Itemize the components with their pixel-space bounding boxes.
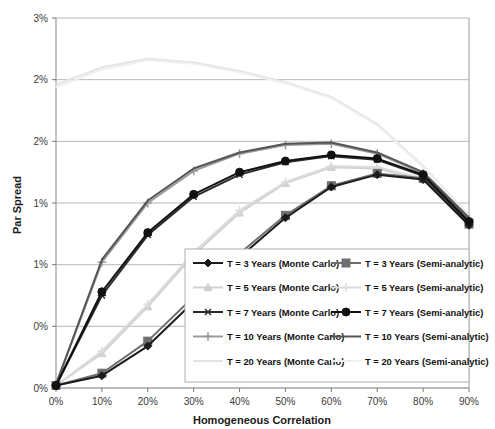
legend-label: T = 5 Years (Monte Carlo): [227, 282, 339, 293]
chart-legend: T = 3 Years (Monte Carlo)T = 3 Years (Se…: [185, 249, 489, 382]
x-tick-label: 20%: [138, 396, 158, 407]
legend-label: T = 7 Years (Monte Carlo): [227, 307, 339, 318]
legend-label: T = 10 Years (Semi-analytic): [365, 331, 489, 342]
x-tick-label: 60%: [321, 396, 341, 407]
data-point-marker-circle: [190, 190, 198, 198]
y-tick-label: 2%: [34, 136, 49, 147]
data-point-marker-circle: [281, 157, 289, 165]
data-point-marker-circle: [373, 155, 381, 163]
data-point-marker-circle: [342, 308, 350, 316]
legend-label: T = 20 Years (Monte Carlo): [227, 356, 344, 367]
x-tick-label: 80%: [413, 396, 433, 407]
par-spread-line-chart: 3%2%2%1%1%0%0% 0%10%20%30%40%50%60%70%80…: [0, 0, 495, 429]
y-tick-label: 1%: [34, 259, 49, 270]
x-tick-label: 0%: [49, 396, 64, 407]
data-point-marker-circle: [98, 288, 106, 296]
x-tick-label: 40%: [230, 396, 250, 407]
legend-label: T = 10 Years (Monte Carlo): [227, 331, 344, 342]
data-point-marker-circle: [236, 168, 244, 176]
x-axis-label: Homogeneous Correlation: [193, 414, 331, 426]
y-tick-label: 0%: [34, 321, 49, 332]
data-point-marker-circle: [52, 382, 60, 390]
legend-label: T = 3 Years (Monte Carlo): [227, 258, 339, 269]
data-point-marker-circle: [144, 229, 152, 237]
legend-label: T = 20 Years (Semi-analytic): [365, 356, 489, 367]
x-tick-label: 30%: [184, 396, 204, 407]
y-tick-label: 3%: [34, 13, 49, 24]
x-tick-label: 70%: [367, 396, 387, 407]
legend-label: T = 3 Years (Semi-analytic): [365, 258, 483, 269]
data-point-marker-square: [342, 259, 350, 267]
chart-container: 3%2%2%1%1%0%0% 0%10%20%30%40%50%60%70%80…: [0, 0, 495, 429]
y-tick-label: 0%: [34, 383, 49, 394]
y-tick-label: 2%: [34, 74, 49, 85]
legend-label: T = 7 Years (Semi-analytic): [365, 307, 483, 318]
x-tick-label: 10%: [92, 396, 112, 407]
data-point-marker-circle: [327, 151, 335, 159]
x-tick-label: 50%: [275, 396, 295, 407]
legend-label: T = 5 Years (Semi-analytic): [365, 282, 483, 293]
x-tick-label: 90%: [459, 396, 479, 407]
data-point-marker-circle: [465, 218, 473, 226]
data-point-marker-circle: [419, 171, 427, 179]
y-tick-label: 1%: [34, 198, 49, 209]
y-axis-label: Par Spread: [11, 176, 23, 234]
